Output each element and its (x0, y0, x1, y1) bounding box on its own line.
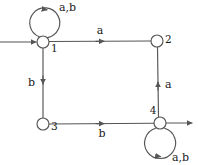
state-diagram-canvas: 1 2 3 4 a,b a b b a a,b (0, 0, 198, 165)
edge-1-to-1-arrowhead (44, 9, 48, 10)
edge-4-to-2-label: a (165, 78, 172, 91)
state-node-4[interactable] (154, 117, 166, 129)
state-node-1[interactable] (37, 36, 49, 48)
edge-4-to-4-arrowhead (157, 156, 161, 157)
edge-1-to-1-label: a,b (59, 1, 76, 14)
state-node-3-label: 3 (51, 120, 58, 132)
edge-3-to-4-label: b (98, 127, 105, 140)
state-diagram-svg: 1 2 3 4 a,b a b b a a,b (0, 0, 198, 165)
edge-1-to-1-selfloop (30, 8, 60, 38)
edge-4-to-4-label: a,b (172, 151, 189, 164)
edge-1-to-3-label: b (28, 76, 35, 89)
edge-1-to-2-label: a (97, 24, 104, 37)
state-node-2-label: 2 (165, 33, 172, 45)
state-node-1-label: 1 (51, 42, 58, 54)
state-node-3[interactable] (37, 118, 49, 130)
state-node-4-label: 4 (150, 104, 157, 116)
edge-4-to-4-selfloop (145, 128, 176, 158)
state-node-2[interactable] (151, 35, 163, 47)
